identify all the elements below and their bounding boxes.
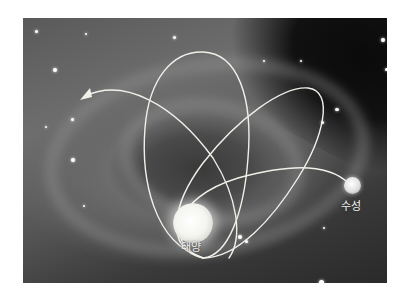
sun-label: 태양 <box>181 242 201 254</box>
sun-icon <box>173 203 213 243</box>
retrograde-path-diagram <box>23 18 387 283</box>
mercury-label: 수성 <box>341 201 361 213</box>
mercury-icon <box>344 177 361 194</box>
orbit-path-left-arc <box>86 90 237 258</box>
direction-arrow-icon <box>80 88 92 100</box>
